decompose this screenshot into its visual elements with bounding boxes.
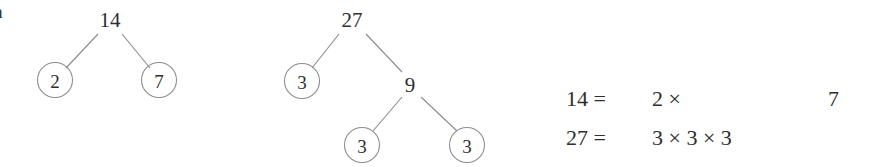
equation-14-lhs: 14 =	[566, 79, 606, 118]
node-label-27: 27	[342, 10, 363, 31]
node-label-14: 14	[100, 10, 121, 31]
node-label-2: 2	[50, 71, 60, 92]
edge-9-to-3-right	[421, 97, 457, 131]
equation-row-14: 14 = 2 × 7	[566, 79, 876, 118]
equation-14-factors: 2 ×	[652, 79, 681, 118]
edge-27-to-3	[312, 34, 339, 68]
node-label-3-lower-left: 3	[357, 136, 367, 157]
edge-14-to-7	[122, 34, 150, 68]
equation-row-27: 27 = 3 × 3 × 3	[566, 118, 876, 157]
equations-block: 14 = 2 × 7 27 = 3 × 3 × 3	[566, 79, 876, 157]
factor-tree-figure: a 14 2 7 27 3 9 3 3 14 = 2 ×	[0, 0, 876, 167]
node-label-3-lower-right: 3	[462, 136, 472, 157]
node-label-9: 9	[405, 75, 416, 96]
node-label-7: 7	[154, 71, 164, 92]
factor-tree-27	[285, 34, 485, 163]
equation-27-factors: 3 × 3 × 3	[652, 118, 732, 157]
edge-27-to-9	[366, 34, 402, 72]
edge-14-to-2	[66, 34, 98, 68]
equation-27-lhs: 27 =	[566, 118, 606, 157]
equation-14-last-factor: 7	[828, 79, 839, 118]
edge-9-to-3-left	[373, 97, 402, 131]
node-label-3-upper-left: 3	[297, 72, 307, 93]
